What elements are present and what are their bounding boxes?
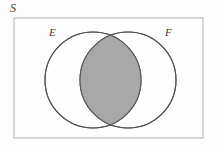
venn-diagram-figure: S E F (0, 0, 217, 150)
set-label-E: E (49, 27, 56, 38)
universal-set-label: S (10, 2, 16, 14)
venn-diagram-canvas (0, 0, 217, 150)
set-label-F: F (165, 27, 172, 38)
